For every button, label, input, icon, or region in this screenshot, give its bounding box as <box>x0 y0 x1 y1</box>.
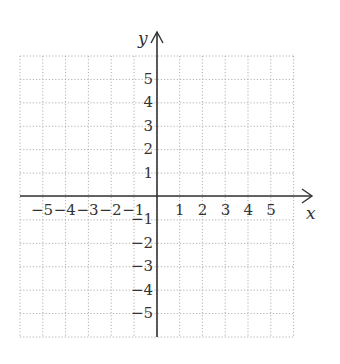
y-tick-label: −3 <box>131 257 153 275</box>
x-axis-label: x <box>306 203 316 223</box>
x-tick-label: −5 <box>31 201 53 219</box>
y-tick-label: −2 <box>131 234 153 252</box>
y-tick-label: 5 <box>143 70 153 88</box>
coordinate-plane: x y −5−4−3−2−112345 54321−1−2−3−4−5 <box>0 0 340 364</box>
x-tick-label: 5 <box>266 201 276 219</box>
x-tick-label: 2 <box>198 201 208 219</box>
y-tick-label: 4 <box>143 93 153 111</box>
y-tick-label: 1 <box>143 164 153 182</box>
y-tick-label: −5 <box>131 304 153 322</box>
x-tick-label: 3 <box>221 201 231 219</box>
y-tick-label: 3 <box>143 117 153 135</box>
y-tick-label: −4 <box>131 281 153 299</box>
x-tick-label: −2 <box>99 201 121 219</box>
x-tick-label: 4 <box>243 201 253 219</box>
y-tick-label: −1 <box>131 210 153 228</box>
x-tick-label: −4 <box>54 201 76 219</box>
x-tick-label: 1 <box>175 201 185 219</box>
y-axis-label: y <box>137 28 148 48</box>
x-tick-labels: −5−4−3−2−112345 <box>31 201 276 219</box>
x-tick-label: −3 <box>77 201 99 219</box>
y-tick-label: 2 <box>143 140 153 158</box>
